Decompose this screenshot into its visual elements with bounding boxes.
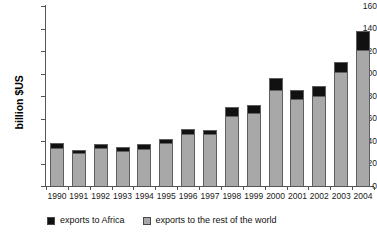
x-axis-tick-mark xyxy=(112,187,113,190)
bar-segment-rest-of-world xyxy=(225,116,239,186)
bar-segment-rest-of-world xyxy=(137,149,151,186)
bar-segment-rest-of-world xyxy=(159,143,173,186)
bar-segment-africa xyxy=(225,107,239,116)
bar-segment-rest-of-world xyxy=(334,72,348,186)
bar-segment-rest-of-world xyxy=(72,153,86,186)
bar-segment-africa xyxy=(137,144,151,149)
bar-segment-africa xyxy=(181,129,195,135)
bar-segment-rest-of-world xyxy=(269,90,283,186)
bar-segment-rest-of-world xyxy=(50,148,64,186)
bar-segment-africa xyxy=(50,143,64,148)
bar-group xyxy=(159,139,173,186)
x-axis-tick-mark xyxy=(374,187,375,190)
x-axis-tick-label: 2001 xyxy=(287,192,309,201)
bar-segment-africa xyxy=(94,144,108,147)
bar-group xyxy=(94,144,108,186)
bar-group xyxy=(116,147,130,186)
bar-segment-rest-of-world xyxy=(290,99,304,186)
x-axis-tick-mark xyxy=(243,187,244,190)
bar-segment-africa xyxy=(116,147,130,152)
x-axis-tick-mark xyxy=(155,187,156,190)
bar-segment-africa xyxy=(334,62,348,72)
legend-item: exports to the rest of the world xyxy=(143,216,277,225)
bars-layer xyxy=(0,0,377,239)
bar-group xyxy=(356,31,370,186)
x-axis-tick-mark xyxy=(177,187,178,190)
legend-label: exports to Africa xyxy=(60,216,125,225)
legend-item: exports to Africa xyxy=(47,216,125,225)
x-axis-tick-label: 1995 xyxy=(155,192,177,201)
x-axis-tick-mark xyxy=(68,187,69,190)
bar-segment-rest-of-world xyxy=(356,50,370,186)
x-axis-tick-mark xyxy=(221,187,222,190)
x-axis-tick-mark xyxy=(265,187,266,190)
bar-group xyxy=(203,130,217,186)
x-axis-tick-mark xyxy=(90,187,91,190)
x-axis-tick-mark xyxy=(46,187,47,190)
legend-label: exports to the rest of the world xyxy=(156,216,277,225)
bar-group xyxy=(50,143,64,186)
bar-segment-africa xyxy=(356,31,370,50)
x-axis-tick-mark xyxy=(330,187,331,190)
x-axis-tick-label: 2003 xyxy=(330,192,352,201)
bar-group xyxy=(72,150,86,186)
x-axis-tick-label: 1998 xyxy=(221,192,243,201)
x-axis-tick-label: 1992 xyxy=(90,192,112,201)
bar-group xyxy=(269,78,283,186)
bar-segment-rest-of-world xyxy=(181,134,195,186)
bar-segment-africa xyxy=(290,90,304,99)
bar-segment-rest-of-world xyxy=(203,134,217,186)
bar-group xyxy=(137,144,151,186)
bar-segment-rest-of-world xyxy=(312,96,326,186)
x-axis-tick-label: 1999 xyxy=(243,192,265,201)
x-axis-tick-mark xyxy=(352,187,353,190)
x-axis-tick-label: 1997 xyxy=(199,192,221,201)
bar-group xyxy=(290,90,304,186)
bar-segment-rest-of-world xyxy=(94,148,108,186)
x-axis-tick-label: 1990 xyxy=(46,192,68,201)
x-axis-tick-mark xyxy=(308,187,309,190)
x-axis-tick-label: 1996 xyxy=(177,192,199,201)
chart-legend: exports to Africaexports to the rest of … xyxy=(47,216,277,225)
x-axis-tick-mark xyxy=(199,187,200,190)
x-axis-tick-label: 2002 xyxy=(308,192,330,201)
bar-segment-africa xyxy=(312,86,326,96)
x-axis-tick-label: 1993 xyxy=(112,192,134,201)
bar-group xyxy=(247,105,261,186)
x-axis-tick-mark xyxy=(133,187,134,190)
bar-segment-africa xyxy=(159,139,173,144)
bar-group xyxy=(334,62,348,186)
legend-swatch xyxy=(143,217,151,225)
x-axis-tick-label: 2004 xyxy=(352,192,374,201)
x-axis-tick-mark xyxy=(287,187,288,190)
bar-segment-africa xyxy=(247,105,261,113)
bar-segment-africa xyxy=(203,130,217,135)
bar-segment-africa xyxy=(269,78,283,90)
bar-segment-rest-of-world xyxy=(116,151,130,186)
x-axis-tick-label: 2000 xyxy=(265,192,287,201)
x-axis-tick-label: 1991 xyxy=(68,192,90,201)
legend-swatch xyxy=(47,217,55,225)
bar-segment-africa xyxy=(72,150,86,153)
x-axis-tick-label: 1994 xyxy=(133,192,155,201)
bar-group xyxy=(312,86,326,186)
bar-group xyxy=(225,107,239,186)
bar-group xyxy=(181,129,195,186)
stacked-bar-chart: billion $US 020406080100120140160 199019… xyxy=(0,0,377,239)
bar-segment-rest-of-world xyxy=(247,113,261,186)
